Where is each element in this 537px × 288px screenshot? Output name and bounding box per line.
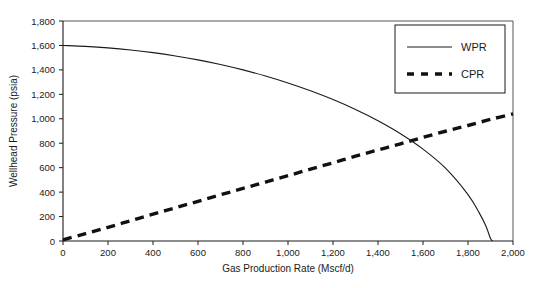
x-tick-label: 2,000 [501, 247, 525, 258]
x-tick-label: 600 [190, 247, 206, 258]
x-tick-label: 1,800 [456, 247, 480, 258]
y-tick-label: 1,400 [31, 64, 55, 75]
x-tick-label: 1,000 [276, 247, 300, 258]
y-tick-label: 200 [39, 211, 55, 222]
x-tick-label: 1,200 [321, 247, 345, 258]
y-tick-label: 800 [39, 138, 55, 149]
legend-label-wpr: WPR [461, 41, 487, 53]
legend-box [395, 25, 505, 93]
legend-label-cpr: CPR [461, 68, 484, 80]
x-tick-label: 0 [60, 247, 65, 258]
x-tick-label: 400 [145, 247, 161, 258]
chart-svg: 02004006008001,0001,2001,4001,6001,800 0… [0, 0, 537, 288]
x-tick-label: 200 [100, 247, 116, 258]
y-tick-label: 1,800 [31, 16, 55, 27]
y-tick-label: 1,600 [31, 40, 55, 51]
y-tick-label: 0 [50, 236, 55, 247]
x-tick-label: 1,600 [411, 247, 435, 258]
y-tick-label: 1,200 [31, 89, 55, 100]
y-tick-label: 1,000 [31, 113, 55, 124]
x-tick-label: 800 [235, 247, 251, 258]
x-axis-title: Gas Production Rate (Mscf/d) [222, 263, 354, 274]
y-tick-label: 400 [39, 187, 55, 198]
chart-figure: 02004006008001,0001,2001,4001,6001,800 0… [0, 0, 537, 288]
x-tick-label: 1,400 [366, 247, 390, 258]
y-tick-label: 600 [39, 162, 55, 173]
legend: WPR CPR [395, 25, 505, 93]
y-axis-title: Wellhead Pressure (psia) [8, 75, 19, 187]
